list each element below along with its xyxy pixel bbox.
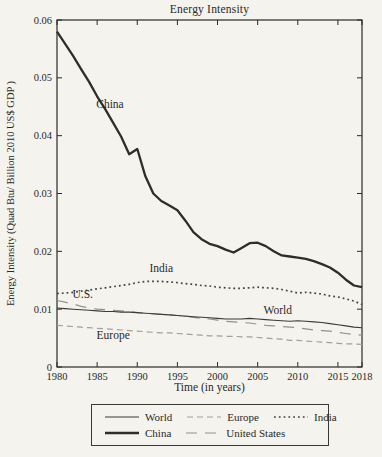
axes-box bbox=[57, 20, 362, 367]
legend-item-world: World bbox=[104, 411, 172, 423]
y-tick-label: 0.06 bbox=[34, 15, 52, 26]
y-tick-label: 0.04 bbox=[34, 130, 53, 141]
legend-item-united-states: United States bbox=[185, 427, 285, 439]
legend-line-sample bbox=[185, 429, 221, 437]
y-tick-label: 0.01 bbox=[34, 304, 52, 315]
x-axis-label: Time (in years) bbox=[57, 381, 362, 393]
legend-item-china: China bbox=[104, 427, 171, 439]
y-tick-label: 0.02 bbox=[34, 246, 52, 257]
legend-label-china: China bbox=[145, 427, 171, 439]
legend-label-india: India bbox=[314, 411, 337, 423]
y-tick-label: 0 bbox=[47, 362, 52, 373]
y-tick-label: 0.03 bbox=[34, 188, 52, 199]
legend-line-sample bbox=[104, 413, 140, 421]
annotation-label-world: World bbox=[263, 304, 292, 316]
legend-label-world: World bbox=[145, 411, 172, 423]
y-tick-label: 0.05 bbox=[34, 72, 52, 83]
legend-line-sample bbox=[186, 413, 222, 421]
chart-legend: WorldEuropeIndiaChinaUnited States bbox=[91, 404, 329, 446]
legend-label-united-states: United States bbox=[226, 427, 285, 439]
series-line-world bbox=[57, 308, 362, 328]
legend-item-india: India bbox=[273, 411, 337, 423]
annotation-label-china: China bbox=[96, 98, 123, 110]
annotation-label-europe: Europe bbox=[97, 329, 130, 342]
scanned-figure-page: Energy Intensity Energy Intensity (Quad … bbox=[0, 0, 382, 457]
series-line-india bbox=[57, 281, 362, 304]
legend-row: WorldEuropeIndia bbox=[92, 411, 328, 423]
legend-label-europe: Europe bbox=[227, 411, 259, 423]
series-line-china bbox=[57, 32, 362, 288]
legend-line-sample bbox=[104, 429, 140, 437]
annotation-label-india: India bbox=[150, 262, 174, 274]
legend-item-europe: Europe bbox=[186, 411, 259, 423]
annotation-label-us: U.S. bbox=[72, 288, 93, 300]
legend-row: ChinaUnited States bbox=[92, 427, 328, 439]
legend-line-sample bbox=[273, 413, 309, 421]
